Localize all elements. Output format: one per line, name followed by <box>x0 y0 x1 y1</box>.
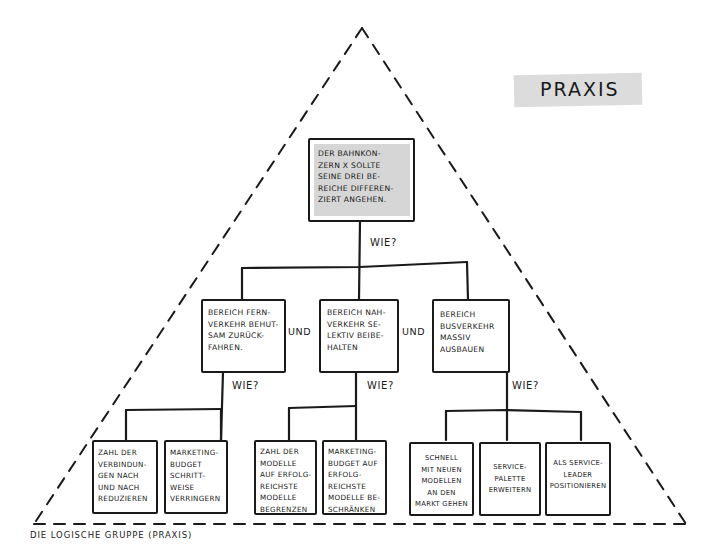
level3-box-1: ZAHL DER VERBINDUN- GEN NACH UND NACH RE… <box>92 440 158 514</box>
level3-text: ALS SERVICE- LEADER POSITIONIEREN <box>547 458 609 493</box>
level2-text: BEREICH BUSVERKEHR MASSIV AUSBAUEN <box>440 309 495 355</box>
level2-text: BEREICH NAH- VERKEHR SE- LEKTIV BEIBE- H… <box>327 307 386 353</box>
root-box: DER BAHNKON- ZERN X SOLLTE SEINE DREI BE… <box>308 138 415 222</box>
and-label-2: UND <box>402 326 425 337</box>
how-label-middle: WIE? <box>367 380 394 391</box>
level3-text: MARKETING- BUDGET SCHRITT- WEISE VERRING… <box>170 447 220 505</box>
level3-box-7: ALS SERVICE- LEADER POSITIONIEREN <box>545 442 611 516</box>
level3-box-2: MARKETING- BUDGET SCHRITT- WEISE VERRING… <box>164 440 228 514</box>
level3-text: ZAHL DER MODELLE AUF ERFOLG- REICHSTE MO… <box>260 446 311 515</box>
level3-box-4: MARKETING- BUDGET AUF ERFOLG- REICHSTE M… <box>322 440 387 515</box>
level2-text: BEREICH FERN- VERKEHR BEHUT- SAM ZURÜCK-… <box>208 307 279 353</box>
how-label-root: WIE? <box>370 237 397 248</box>
level2-box-busverkehr: BEREICH BUSVERKEHR MASSIV AUSBAUEN <box>432 299 510 373</box>
and-label-1: UND <box>288 326 311 337</box>
level3-box-6: SERVICE- PALETTE ERWEITERN <box>479 442 541 516</box>
level3-text: ZAHL DER VERBINDUN- GEN NACH UND NACH RE… <box>98 447 148 505</box>
level3-box-5: SCHNELL MIT NEUEN MODELLEN AN DEN MARKT … <box>409 442 474 516</box>
level3-text: SCHNELL MIT NEUEN MODELLEN AN DEN MARKT … <box>411 453 472 511</box>
level3-text: MARKETING- BUDGET AUF ERFOLG- REICHSTE M… <box>328 446 380 515</box>
how-label-left: WIE? <box>232 380 259 391</box>
praxis-tag-label: PRAXIS <box>540 78 620 100</box>
level2-box-nahverkehr: BEREICH NAH- VERKEHR SE- LEKTIV BEIBE- H… <box>319 299 399 373</box>
level3-box-3: ZAHL DER MODELLE AUF ERFOLG- REICHSTE MO… <box>254 440 317 515</box>
root-text: DER BAHNKON- ZERN X SOLLTE SEINE DREI BE… <box>318 148 393 206</box>
how-label-right: WIE? <box>512 380 539 391</box>
level3-text: SERVICE- PALETTE ERWEITERN <box>481 462 539 497</box>
figure-caption: DIE LOGISCHE GRUPPE (PRAXIS) <box>30 530 192 540</box>
level2-box-fernverkehr: BEREICH FERN- VERKEHR BEHUT- SAM ZURÜCK-… <box>201 299 286 373</box>
